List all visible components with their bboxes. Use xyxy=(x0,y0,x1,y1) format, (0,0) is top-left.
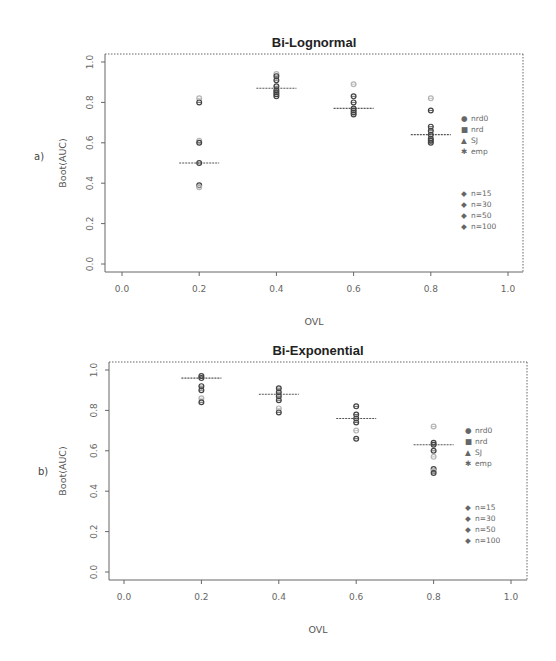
y-tick-label: 1.0 xyxy=(89,363,99,378)
legend-size-marker: ◆ xyxy=(465,536,471,545)
legend-size-label: n=50 xyxy=(471,211,492,220)
legend-size-marker: ◆ xyxy=(461,211,467,220)
legend-size-label: n=15 xyxy=(475,503,496,512)
legend-method-label: nrd xyxy=(475,437,488,446)
y-tick-label: 0.4 xyxy=(85,176,95,191)
legend-size-label: n=100 xyxy=(475,536,501,545)
legend-size-marker: ◆ xyxy=(465,503,471,512)
legend-method-marker: ● xyxy=(461,114,468,123)
legend-method-marker: ▲ xyxy=(461,136,467,145)
y-tick-label: 0.2 xyxy=(89,524,99,538)
x-tick-label: 0.2 xyxy=(192,284,206,294)
y-tick-label: 0.6 xyxy=(85,135,95,150)
x-tick-label: 0.0 xyxy=(117,592,132,602)
legend-method-label: emp xyxy=(475,459,492,468)
panel-label: b) xyxy=(38,466,48,477)
legend-size-label: n=30 xyxy=(475,514,496,523)
legend-method-marker: ■ xyxy=(461,125,468,134)
legend-size-label: n=100 xyxy=(471,222,497,231)
x-tick-label: 0.8 xyxy=(424,284,439,294)
y-tick-label: 0.8 xyxy=(85,95,95,110)
panel-label: a) xyxy=(34,151,44,162)
legend-method-marker: ● xyxy=(465,426,472,435)
legend-method-label: nrd0 xyxy=(471,114,488,123)
x-tick-label: 1.0 xyxy=(501,284,516,294)
x-tick-label: 0.6 xyxy=(346,284,361,294)
legend-method-marker: ▲ xyxy=(465,448,471,457)
legend-method-marker: ✱ xyxy=(461,147,467,156)
figure: Bi-Lognormala)Boot(AUC)OVL0.00.20.40.60.… xyxy=(0,0,556,661)
legend-size-label: n=30 xyxy=(471,200,492,209)
legend-size-marker: ◆ xyxy=(465,514,471,523)
legend-size-marker: ◆ xyxy=(465,525,471,534)
legend-method-label: nrd xyxy=(471,125,484,134)
x-axis-label: OVL xyxy=(304,316,324,327)
chart-panel-b: Bi-Exponentialb)Boot(AUC)OVL0.00.20.40.6… xyxy=(38,343,527,635)
y-axis-label: Boot(AUC) xyxy=(57,446,68,495)
chart-panel-a: Bi-Lognormala)Boot(AUC)OVL0.00.20.40.60.… xyxy=(34,35,523,327)
y-tick-label: 0.4 xyxy=(89,484,99,499)
x-tick-label: 0.6 xyxy=(349,592,364,602)
legend-size-label: n=50 xyxy=(475,525,496,534)
legend-method-marker: ■ xyxy=(465,437,472,446)
x-tick-label: 1.0 xyxy=(504,592,519,602)
chart-title: Bi-Exponential xyxy=(272,343,363,358)
y-tick-label: 0.2 xyxy=(85,216,95,230)
x-axis-label: OVL xyxy=(308,624,328,635)
legend-size-marker: ◆ xyxy=(461,189,467,198)
x-tick-label: 0.8 xyxy=(426,592,441,602)
chart-title: Bi-Lognormal xyxy=(272,35,357,50)
x-tick-label: 0.0 xyxy=(115,284,130,294)
legend-method-marker: ✱ xyxy=(465,459,471,468)
y-tick-label: 0.0 xyxy=(89,565,99,580)
y-tick-label: 0.0 xyxy=(85,257,95,272)
legend-size-label: n=15 xyxy=(471,189,492,198)
y-tick-label: 0.6 xyxy=(89,443,99,458)
legend-method-label: SJ xyxy=(475,448,482,457)
legend-method-label: emp xyxy=(471,147,488,156)
legend-size-marker: ◆ xyxy=(461,200,467,209)
legend-size-marker: ◆ xyxy=(461,222,467,231)
y-tick-label: 1.0 xyxy=(85,55,95,70)
x-tick-label: 0.4 xyxy=(272,592,287,602)
x-tick-label: 0.4 xyxy=(269,284,284,294)
x-tick-label: 0.2 xyxy=(194,592,208,602)
y-axis-label: Boot(AUC) xyxy=(57,138,68,187)
legend-method-label: SJ xyxy=(471,136,478,145)
legend-method-label: nrd0 xyxy=(475,426,492,435)
y-tick-label: 0.8 xyxy=(89,403,99,418)
